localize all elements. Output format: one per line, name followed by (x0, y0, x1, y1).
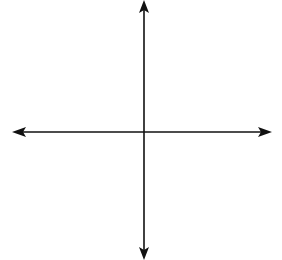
parabola-chart (0, 0, 282, 260)
axes (12, 0, 272, 260)
